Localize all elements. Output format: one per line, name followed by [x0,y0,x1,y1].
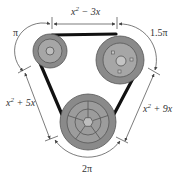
bolt-hole [112,51,115,54]
bottom-pulley [60,94,116,150]
label-top: x2 − 3x [70,5,101,17]
label-arc-small: π [13,27,18,38]
bolt-hole [130,58,133,61]
bolt-hole [118,70,121,73]
belt-left-segment [40,63,63,117]
label-arc-large: 1.5π [150,27,168,38]
belt-top-segment [52,34,116,35]
label-right: x2 + 9x [142,102,173,114]
label-left: x2 + 5x [5,96,36,108]
belt-pulley-diagram: x2 − 3x π 1.5π x2 + 5x x2 + 9x 2π [0,0,178,178]
label-arc-bottom: 2π [82,163,92,174]
small-pulley [33,34,67,68]
large-pulley [96,36,144,84]
